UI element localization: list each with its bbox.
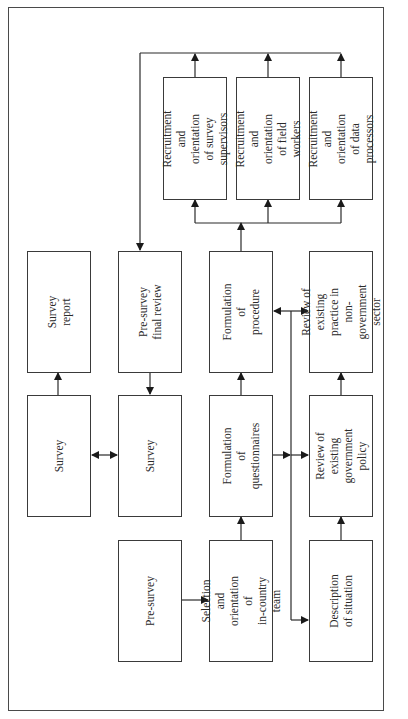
node-formulation-questionnaires: Formulation of questionnaires xyxy=(209,395,273,517)
node-label: Formulation of procedure xyxy=(220,281,262,343)
node-selection-team: Selection and orientation of in-country … xyxy=(209,540,273,662)
node-label: Recruitment and orientation of data proc… xyxy=(306,108,376,170)
node-label: Pre-survey final review xyxy=(136,281,164,343)
node-label: Formulation of questionnaires xyxy=(220,423,262,489)
node-review-ngo: Review of existing practice in non-gover… xyxy=(309,251,373,373)
node-label: Survey xyxy=(143,425,157,487)
node-pre-survey-final-review: Pre-survey final review xyxy=(118,251,182,373)
node-label: Description of situation xyxy=(327,570,355,632)
node-description-situation: Description of situation xyxy=(309,540,373,662)
node-survey-report: Survey report xyxy=(27,251,91,373)
node-label: Pre-survey xyxy=(143,570,157,632)
node-review-govt: Review of existing government policy xyxy=(309,395,373,517)
node-label: Recruitment and orientation of survey su… xyxy=(160,108,230,170)
node-label: Survey xyxy=(52,425,66,487)
node-pre-survey: Pre-survey xyxy=(118,540,182,662)
node-formulation-procedure: Formulation of procedure xyxy=(209,251,273,373)
node-label: Survey report xyxy=(45,281,73,343)
node-survey-final: Survey xyxy=(27,395,91,517)
node-label: Selection and orientation of in-country … xyxy=(199,570,283,632)
node-label: Review of existing practice in non-gover… xyxy=(299,281,383,343)
node-recruit-field-workers: Recruitment and orientation of field wor… xyxy=(236,77,300,200)
node-recruit-supervisors: Recruitment and orientation of survey su… xyxy=(163,77,227,200)
node-label: Review of existing government policy xyxy=(313,425,369,487)
node-label: Recruitment and orientation of field wor… xyxy=(233,108,303,170)
node-recruit-data-processors: Recruitment and orientation of data proc… xyxy=(309,77,373,200)
node-survey: Survey xyxy=(118,395,182,517)
